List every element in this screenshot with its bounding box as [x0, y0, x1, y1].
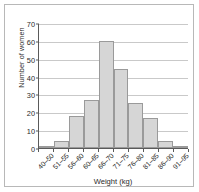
x-tick-label: 60–65 [81, 152, 99, 170]
histogram-figure: Number of women 010203040506070 40–5051–… [0, 0, 199, 192]
histogram-bar [84, 100, 99, 148]
plot-area: 010203040506070 [38, 24, 188, 149]
x-tick-mark [188, 149, 189, 152]
y-tick-label: 30 [27, 91, 35, 100]
histogram-bar [158, 141, 173, 148]
bars-group [39, 24, 188, 148]
bar-cell [84, 24, 99, 148]
bar-cell [158, 24, 173, 148]
y-tick-label: 10 [27, 127, 35, 136]
x-tick-label: 71–75 [111, 152, 129, 170]
bar-cell [54, 24, 69, 148]
bar-cell [69, 24, 84, 148]
histogram-bar [69, 116, 84, 148]
x-tick-label: 51–55 [51, 152, 69, 170]
x-tick-label: 40–50 [36, 152, 54, 170]
y-tick-label: 50 [27, 55, 35, 64]
bar-cell [173, 24, 188, 148]
y-tick-label: 20 [27, 109, 35, 118]
histogram-bar [99, 41, 114, 148]
x-tick-label: 91–95 [171, 152, 189, 170]
y-tick-label: 40 [27, 73, 35, 82]
bar-cell [39, 24, 54, 148]
x-axis-tick-labels: 40–5051–5556–6060–6566–7071–7576–8081–85… [38, 152, 188, 176]
histogram-bar [54, 141, 69, 148]
histogram-bar [173, 146, 188, 148]
x-tick-label: 56–60 [66, 152, 84, 170]
histogram-bar [128, 103, 143, 148]
histogram-bar [114, 69, 129, 148]
y-tick-label: 60 [27, 37, 35, 46]
bar-cell [128, 24, 143, 148]
x-tick-label: 86–90 [156, 152, 174, 170]
bar-cell [99, 24, 114, 148]
x-tick-label: 81–85 [141, 152, 159, 170]
y-tick-label: 0 [31, 145, 35, 154]
x-tick-label: 66–70 [96, 152, 114, 170]
y-tick-label: 70 [27, 20, 35, 29]
histogram-bar [143, 118, 158, 148]
figure-frame: Number of women 010203040506070 40–5051–… [4, 4, 194, 187]
histogram-bar [39, 146, 54, 148]
bar-cell [114, 24, 129, 148]
x-tick-label: 76–80 [126, 152, 144, 170]
bar-cell [143, 24, 158, 148]
x-axis-title: Weight (kg) [38, 177, 188, 186]
y-axis-title: Number of women [17, 10, 26, 106]
